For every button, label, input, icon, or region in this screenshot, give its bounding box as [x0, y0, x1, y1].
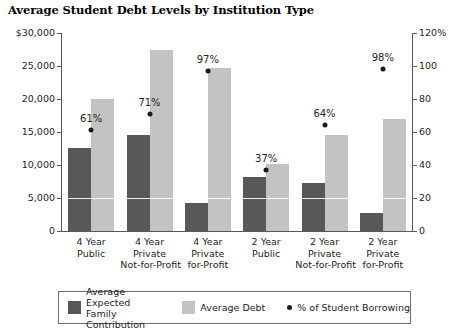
data-label-student-borrowing: 64% — [313, 109, 335, 119]
data-label-student-borrowing: 71% — [138, 98, 160, 108]
bars-layer — [62, 33, 412, 231]
y-axis-left-tick — [57, 165, 61, 166]
y-axis-right-tick-label: 0 — [419, 226, 425, 236]
legend-label: Average Expected Family Contribution — [86, 286, 160, 330]
legend-label: Average Debt — [200, 302, 265, 313]
x-axis-category-label: 2 YearPublic — [237, 236, 295, 259]
y-axis-left-tick-label: 25,000 — [22, 61, 55, 71]
chart-legend: Average Expected Family ContributionAver… — [58, 291, 411, 324]
y-axis-right-tick — [413, 99, 417, 100]
legend-swatch-dark — [68, 301, 81, 314]
legend-item: Average Expected Family Contribution — [68, 286, 160, 330]
y-axis-right-tick-label: 20 — [419, 193, 431, 203]
legend-dot-icon — [287, 305, 292, 310]
bar-average-debt — [208, 68, 231, 231]
y-axis-left-tick-label: 15,000 — [22, 127, 55, 137]
x-axis-category-label: 4 YearPublic — [62, 236, 120, 259]
y-axis-left-tick — [57, 231, 61, 232]
y-axis-right-tick — [413, 132, 417, 133]
y-axis-right-tick-label: 100 — [419, 61, 437, 71]
x-axis-line — [61, 231, 413, 232]
data-label-student-borrowing: 98% — [372, 53, 394, 63]
bar-expected-family-contribution — [243, 177, 266, 231]
bar-average-debt — [150, 50, 173, 232]
scatter-point-student-borrowing — [89, 128, 94, 133]
y-axis-right-tick — [413, 231, 417, 232]
y-axis-right-tick — [413, 66, 417, 67]
legend-label: % of Student Borrowing — [297, 302, 410, 313]
bar-expected-family-contribution — [360, 213, 383, 231]
scatter-point-student-borrowing — [322, 123, 327, 128]
bar-average-debt — [383, 119, 406, 231]
y-axis-right-tick-label: 80 — [419, 94, 431, 104]
y-axis-left-tick-label: 20,000 — [22, 94, 55, 104]
x-axis-category-label: 2 YearPrivatefor-Profit — [354, 236, 412, 271]
scatter-point-student-borrowing — [147, 111, 152, 116]
scatter-point-student-borrowing — [264, 167, 269, 172]
y-axis-left-tick — [57, 33, 61, 34]
legend-swatch-light — [182, 301, 195, 314]
bar-expected-family-contribution — [127, 135, 150, 231]
data-label-student-borrowing: 61% — [80, 114, 102, 124]
y-axis-left-tick-label: 0 — [49, 226, 55, 236]
bar-expected-family-contribution — [185, 203, 208, 231]
y-axis-right-tick-label: 60 — [419, 127, 431, 137]
scatter-point-student-borrowing — [205, 68, 210, 73]
y-axis-left-tick-label: $30,000 — [16, 28, 55, 38]
x-axis-category-label: 4 YearPrivatefor-Profit — [179, 236, 237, 271]
bar-average-debt — [325, 135, 348, 231]
y-axis-right-tick-label: 120% — [419, 28, 446, 38]
y-axis-left-tick — [57, 132, 61, 133]
gridline-5000 — [62, 198, 412, 199]
y-axis-left-tick-label: 5,000 — [28, 193, 55, 203]
y-axis-right-tick-label: 40 — [419, 160, 431, 170]
y-axis-right-tick — [413, 165, 417, 166]
data-label-student-borrowing: 37% — [255, 154, 277, 164]
data-label-student-borrowing: 97% — [197, 55, 219, 65]
x-axis-category-label: 4 YearPrivateNot-for-Profit — [120, 236, 178, 271]
legend-item: Average Debt — [182, 301, 265, 314]
y-axis-left-tick-label: 10,000 — [22, 160, 55, 170]
bar-expected-family-contribution — [68, 148, 91, 231]
y-axis-left-tick — [57, 99, 61, 100]
y-axis-right-tick — [413, 33, 417, 34]
x-axis-category-label: 2 YearPrivateNot-for-Profit — [295, 236, 353, 271]
y-axis-left-tick — [57, 66, 61, 67]
y-axis-right-tick — [413, 198, 417, 199]
scatter-point-student-borrowing — [380, 67, 385, 72]
legend-item: % of Student Borrowing — [287, 302, 410, 313]
bar-expected-family-contribution — [302, 183, 325, 231]
y-axis-left-tick — [57, 198, 61, 199]
